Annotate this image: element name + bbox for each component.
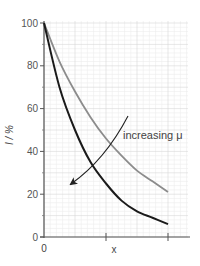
svg-text:20: 20 [27, 189, 39, 200]
annotation-label: increasing μ [123, 129, 183, 141]
svg-text:0: 0 [32, 232, 38, 243]
svg-text:80: 80 [27, 60, 39, 71]
y-ticks: 020406080100 [21, 18, 44, 243]
origin-label: 0 [41, 243, 47, 254]
x-axis-label: x [112, 244, 117, 255]
svg-text:40: 40 [27, 146, 39, 157]
attenuation-chart: 020406080100 increasing μ I / % x 0 [0, 0, 200, 266]
y-axis-label: I / % [4, 125, 15, 145]
svg-text:100: 100 [21, 18, 38, 29]
svg-text:60: 60 [27, 103, 39, 114]
